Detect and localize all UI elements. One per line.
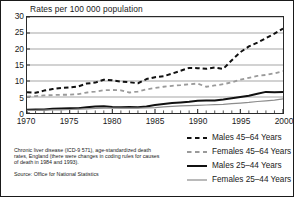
chart-title: Rates per 100 000 population: [30, 4, 143, 14]
gridlines: [27, 17, 283, 97]
plot-area: [26, 16, 284, 114]
legend-item[interactable]: Males 45–64 Years: [187, 131, 293, 145]
legend-label: Females 45–64 Years: [212, 147, 291, 157]
x-axis-tick-label: 2000: [275, 116, 294, 126]
series-line-0: [27, 29, 283, 93]
legend-label: Males 25–44 Years: [212, 161, 282, 171]
y-axis-tick-label: 30: [4, 11, 24, 21]
legend-item[interactable]: Males 25–44 Years: [187, 159, 293, 173]
legend-label: Males 45–64 Years: [212, 133, 282, 143]
y-axis-tick-label: 5: [4, 93, 24, 103]
legend-line-icon: [187, 133, 207, 143]
plot-svg: [27, 17, 283, 113]
chart-notes: Chronic liver disease (ICD-9 571), age-s…: [14, 147, 164, 177]
x-axis-tick-label: 1980: [103, 116, 122, 126]
series-line-1: [27, 71, 283, 97]
chart-legend: Males 45–64 YearsFemales 45–64 YearsMale…: [187, 131, 293, 187]
x-axis-tick-label: 1990: [189, 116, 208, 126]
x-axis-tick-label: 1985: [146, 116, 165, 126]
data-series-group: [27, 29, 283, 111]
legend-line-icon: [187, 175, 207, 185]
legend-line-icon: [187, 147, 207, 157]
legend-label: Females 25–44 Years: [212, 175, 291, 185]
legend-line-icon: [187, 161, 207, 171]
y-axis-tick-label: 15: [4, 60, 24, 70]
x-axis-tick-label: 1970: [17, 116, 36, 126]
chart-figure: Rates per 100 000 population 05101520253…: [0, 0, 294, 197]
y-axis-tick-marks: [27, 17, 30, 113]
chart-source: Source: Office for National Statistics: [14, 171, 164, 177]
y-axis-tick-label: 10: [4, 76, 24, 86]
legend-item[interactable]: Females 25–44 Years: [187, 173, 293, 187]
x-axis-tick-label: 1975: [60, 116, 79, 126]
x-axis-tick-label: 1995: [232, 116, 251, 126]
y-axis-tick-label: 20: [4, 44, 24, 54]
legend-item[interactable]: Females 45–64 Years: [187, 145, 293, 159]
chart-footnote: Chronic liver disease (ICD-9 571), age-s…: [14, 147, 164, 166]
y-axis-tick-label: 25: [4, 27, 24, 37]
